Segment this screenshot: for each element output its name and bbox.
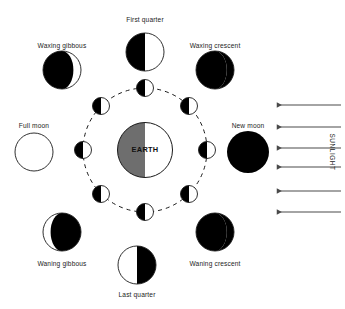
moon-dark-half [93, 186, 102, 203]
moon-dark-half [137, 204, 145, 221]
orbit-moon-top-left [93, 98, 110, 115]
phase-label-full-moon: Full moon [19, 123, 49, 130]
moon-dark-half [199, 142, 208, 159]
orbit-moon-right [199, 142, 216, 159]
orbit-moon-left [75, 142, 92, 159]
phase-moon-full-moon [15, 133, 53, 171]
moon-dark-half [126, 33, 145, 71]
moon-dark-left-half [196, 51, 227, 89]
phase-label-waning-gibbous: Waning gibbous [37, 261, 86, 268]
phase-moon-waning-gibbous [43, 213, 81, 251]
phase-moon-last-quarter [118, 246, 156, 284]
sunlight-label: SUNLIGHT [329, 133, 335, 170]
orbit-moon-bottom [137, 204, 154, 221]
phase-moon-waxing-crescent [196, 51, 234, 89]
phase-moon-waxing-gibbous [43, 51, 81, 89]
moon-dark-crescent [43, 51, 73, 89]
moon-dark-half [93, 98, 102, 115]
phase-label-waning-crescent: Waning crescent [189, 261, 240, 268]
phase-label-waxing-crescent: Waxing crescent [190, 43, 241, 50]
moon-dark-crescent [51, 213, 81, 251]
moon-dark-disc [227, 131, 269, 173]
moon-dark-half [137, 80, 145, 97]
phase-label-first-quarter: First quarter [126, 17, 164, 24]
phase-moon-waning-crescent [196, 213, 234, 251]
earth-label: EARTH [132, 146, 159, 153]
phase-moon-new-moon [227, 131, 269, 173]
moon-phases-diagram: First quarterWaxing crescentNew moonWani… [0, 0, 345, 309]
moon-lit-disc [15, 133, 53, 171]
phase-label-new-moon: New moon [232, 123, 265, 130]
phase-label-last-quarter: Last quarter [119, 292, 156, 299]
orbit-moon-top [137, 80, 154, 97]
phase-moon-first-quarter [126, 33, 164, 71]
orbit-moon-bottom-left [93, 186, 110, 203]
orbit-moon-top-right [181, 98, 198, 115]
moon-dark-left-half [196, 213, 227, 251]
moon-dark-half [75, 142, 84, 159]
moon-dark-half [137, 246, 156, 284]
phase-label-waxing-gibbous: Waxing gibbous [38, 43, 87, 50]
orbit-moon-bottom-right [181, 186, 198, 203]
